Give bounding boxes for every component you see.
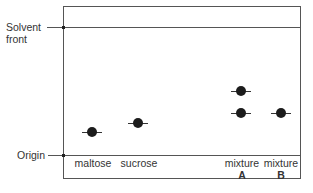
- origin-line: [63, 155, 301, 156]
- lane-label-maltose: maltose: [72, 157, 114, 169]
- origin-label: Origin: [17, 149, 45, 161]
- lane-name: mixture: [264, 157, 298, 169]
- solvent-front-label-line2: front: [6, 33, 27, 45]
- spot-maltose: [87, 127, 97, 137]
- solvent-front-line: [63, 27, 301, 28]
- chromatography-paper: [63, 6, 301, 179]
- origin-marker: [62, 154, 65, 157]
- lane-name: mixture: [225, 157, 259, 169]
- solvent-front-label: Solvent front: [6, 21, 41, 45]
- lane-name: sucrose: [121, 157, 158, 169]
- lane-sub: B: [260, 169, 302, 181]
- lane-label-mixture-a: mixture A: [221, 157, 263, 181]
- lane-name: maltose: [75, 157, 112, 169]
- solvent-front-label-line1: Solvent: [6, 21, 41, 33]
- lane-sub: A: [221, 169, 263, 181]
- lane-label-mixture-b: mixture B: [260, 157, 302, 181]
- spot-mixture-b: [276, 108, 286, 118]
- origin-pointer: [48, 155, 63, 156]
- spot-sucrose: [133, 118, 143, 128]
- spot-mixture-a-lower: [236, 108, 246, 118]
- lane-label-sucrose: sucrose: [117, 157, 161, 169]
- solvent-front-marker: [62, 26, 65, 29]
- spot-mixture-a-upper: [236, 86, 246, 96]
- solvent-front-pointer: [47, 27, 63, 28]
